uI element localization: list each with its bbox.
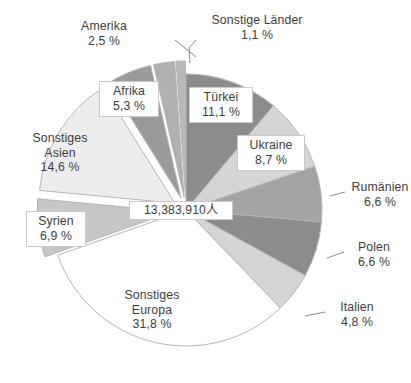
slice-label-italien-name: Italien	[330, 300, 384, 315]
slice-label-sonstige-laender-value: 1,1 %	[196, 28, 318, 43]
slice-label-sonstiges-europa: Sonstiges Europa 31,8 %	[105, 288, 199, 332]
leader-line-rumaenien	[330, 192, 345, 196]
slice-label-syrien-value: 6,9 %	[32, 229, 80, 244]
slice-label-rumaenien-name: Rumänien	[349, 180, 411, 195]
slice-label-polen-name: Polen	[349, 240, 399, 255]
slice-label-afrika-name: Afrika	[105, 84, 153, 99]
slice-label-sonstiges-europa-value: 31,8 %	[105, 317, 199, 332]
slice-label-ukraine: Ukraine 8,7 %	[237, 135, 305, 171]
slice-label-rumaenien-value: 6,6 %	[349, 195, 411, 210]
slice-label-afrika-value: 5,3 %	[105, 99, 153, 114]
slice-label-tuerkei-name: Türkei	[195, 90, 247, 105]
slice-label-sonstige-laender: Sonstige Länder 1,1 %	[196, 13, 318, 42]
slice-label-sonstiges-asien-name: Sonstiges	[14, 131, 106, 146]
slice-label-sonstige-laender-name: Sonstige Länder	[196, 13, 318, 28]
slice-label-amerika-value: 2,5 %	[58, 34, 150, 49]
slice-label-afrika: Afrika 5,3 %	[99, 81, 159, 117]
pie-center-total-label: 13,383,910人	[129, 201, 233, 220]
pie-chart: Sonstige Länder 1,1 % Amerika 2,5 % Afri…	[0, 0, 411, 383]
slice-label-polen-value: 6,6 %	[349, 255, 399, 270]
slice-label-amerika-name: Amerika	[58, 19, 150, 34]
slice-label-sonstiges-europa-name2: Europa	[105, 303, 199, 318]
leader-line-sonstige-laender	[189, 40, 196, 63]
slice-label-syrien-name: Syrien	[32, 214, 80, 229]
slice-label-sonstiges-asien-name2: Asien	[14, 146, 106, 161]
slice-label-sonstiges-asien-value: 14,6 %	[14, 160, 106, 175]
slice-label-italien-value: 4,8 %	[330, 315, 384, 330]
leader-line-amerika	[175, 40, 196, 57]
slice-label-sonstiges-asien: Sonstiges Asien 14,6 %	[14, 131, 106, 175]
slice-label-ukraine-name: Ukraine	[243, 138, 299, 153]
slice-label-sonstiges-europa-name: Sonstiges	[105, 288, 199, 303]
pie-center-total-value: 13,383,910人	[134, 203, 228, 217]
slice-label-ukraine-value: 8,7 %	[243, 153, 299, 168]
slice-label-rumaenien: Rumänien 6,6 %	[349, 180, 411, 209]
slice-label-italien: Italien 4,8 %	[330, 300, 384, 329]
slice-label-polen: Polen 6,6 %	[349, 240, 399, 269]
slice-label-syrien: Syrien 6,9 %	[26, 211, 86, 247]
slice-label-amerika: Amerika 2,5 %	[58, 19, 150, 48]
leader-line-polen	[327, 252, 344, 258]
slice-label-tuerkei-value: 11,1 %	[195, 105, 247, 120]
slice-label-tuerkei: Türkei 11,1 %	[189, 87, 253, 123]
leader-line-italien	[305, 312, 325, 316]
